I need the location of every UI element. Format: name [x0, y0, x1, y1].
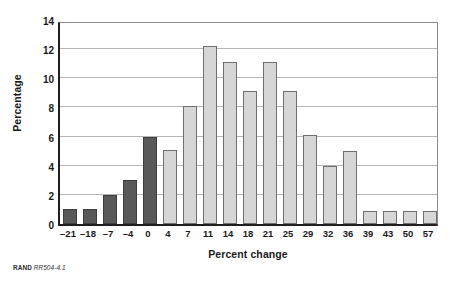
y-axis-tick-labels: 02468101214	[30, 22, 54, 226]
bar	[163, 150, 177, 224]
x-tick-label: 29	[303, 228, 314, 240]
y-tick-label: 10	[30, 75, 54, 85]
x-tick-label: 25	[283, 228, 294, 240]
bar	[263, 62, 277, 224]
bar	[283, 91, 297, 224]
bar	[203, 46, 217, 224]
y-tick-label: 6	[30, 134, 54, 144]
y-tick-label: 0	[30, 221, 54, 231]
x-tick-label: 0	[145, 228, 150, 240]
bar	[183, 106, 197, 224]
x-axis-tick-labels: –21–18–7–4047111418212529323639435057	[58, 228, 438, 242]
bar	[303, 135, 317, 224]
x-tick-label: 21	[263, 228, 274, 240]
x-tick-label: 43	[383, 228, 394, 240]
x-tick-label: 4	[165, 228, 170, 240]
x-tick-label: 32	[323, 228, 334, 240]
x-tick-label: 39	[363, 228, 374, 240]
y-tick-label: 14	[30, 17, 54, 27]
bar	[143, 137, 157, 224]
bar	[383, 211, 397, 224]
source-note: RAND RR504-4.1	[13, 264, 66, 271]
bar	[343, 151, 357, 224]
x-tick-label: 7	[185, 228, 190, 240]
x-tick-label: –4	[123, 228, 134, 240]
bar	[323, 166, 337, 224]
bar	[83, 209, 97, 224]
plot-area	[58, 22, 438, 226]
bar	[363, 211, 377, 224]
bar	[63, 209, 77, 224]
bar	[123, 180, 137, 224]
bar-series	[60, 23, 437, 224]
x-tick-label: 18	[243, 228, 254, 240]
y-tick-label: 8	[30, 104, 54, 114]
figure-container: Percentage 02468101214 –21–18–7–40471114…	[0, 0, 464, 282]
x-axis-title: Percent change	[58, 248, 438, 260]
bar	[223, 62, 237, 224]
x-tick-label: 36	[343, 228, 354, 240]
x-tick-label: –21	[60, 228, 76, 240]
x-tick-label: 57	[423, 228, 434, 240]
y-tick-label: 12	[30, 46, 54, 56]
bar	[403, 211, 417, 224]
x-tick-label: –18	[80, 228, 96, 240]
bar	[243, 91, 257, 224]
y-axis-title: Percentage	[11, 53, 23, 153]
x-tick-label: 14	[223, 228, 234, 240]
x-tick-label: 50	[403, 228, 414, 240]
x-tick-label: –7	[103, 228, 114, 240]
bar	[423, 211, 437, 224]
bar	[103, 195, 117, 224]
source-note-id: RR504-4.1	[34, 264, 66, 271]
source-note-label: RAND	[13, 264, 32, 271]
x-tick-label: 11	[203, 228, 213, 240]
y-tick-label: 2	[30, 192, 54, 202]
y-tick-label: 4	[30, 163, 54, 173]
